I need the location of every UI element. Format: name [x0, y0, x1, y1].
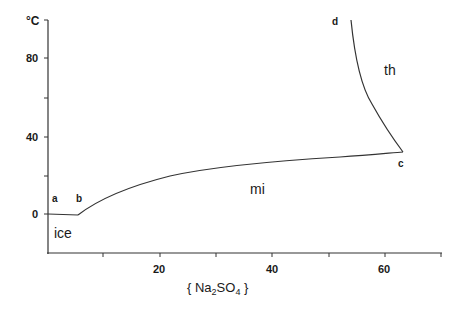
x-axis-label: { Na2SO4 }	[187, 280, 248, 297]
x-tick-label-40: 40	[266, 263, 278, 275]
x-axis-label-pre: { Na	[187, 280, 212, 295]
y-axis-unit-label: °C	[26, 14, 39, 28]
x-axis-label-mid: SO	[217, 280, 236, 295]
curve-d-c	[351, 20, 403, 152]
region-label-mi: mi	[250, 181, 265, 197]
x-tick-label-60: 60	[378, 263, 390, 275]
point-label-c: c	[398, 158, 404, 169]
phase-diagram	[0, 0, 461, 316]
y-tick-label-80: 80	[26, 52, 38, 64]
region-label-ice: ice	[54, 225, 72, 241]
point-label-d: d	[332, 16, 338, 27]
x-axis-label-post: }	[240, 280, 248, 295]
region-label-th: th	[384, 62, 396, 78]
point-label-b: b	[76, 193, 82, 204]
curve-a-b	[48, 214, 78, 215]
curve-b-c	[78, 152, 403, 215]
y-tick-label-40: 40	[26, 131, 38, 143]
x-tick-label-20: 20	[153, 263, 165, 275]
y-tick-label-0: 0	[32, 208, 38, 220]
point-label-a: a	[52, 193, 58, 204]
x-ticks	[103, 253, 441, 257]
